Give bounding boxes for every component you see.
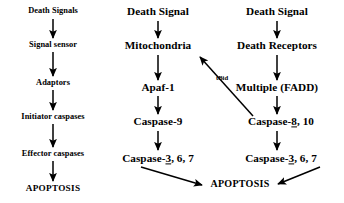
node-mitochondria: Mitochondria — [125, 40, 191, 51]
node-multiple-fadd: Multiple (FADD) — [236, 82, 318, 93]
node-caspase-3-6-7-mid: Caspase-3, 6, 7 — [122, 153, 194, 164]
node-death-signals: Death Signals — [28, 7, 78, 15]
apoptosis-pathway-diagram: Death Signals Signal sensor Adaptors Ini… — [0, 0, 344, 203]
edge-label-tbid: tBid — [216, 75, 228, 82]
node-death-signal-right: Death Signal — [246, 6, 308, 17]
node-signal-sensor: Signal sensor — [29, 41, 77, 49]
node-caspase-8-10: Caspase-8, 10 — [248, 116, 314, 127]
node-death-receptors: Death Receptors — [237, 40, 317, 51]
node-caspase-9: Caspase-9 — [134, 116, 183, 127]
node-apoptosis-center: APOPTOSIS — [210, 179, 269, 189]
node-apoptosis-left: APOPTOSIS — [26, 184, 81, 193]
arrow-layer — [0, 0, 344, 203]
node-effector-caspases: Effector caspases — [22, 150, 84, 158]
node-adaptors: Adaptors — [36, 79, 70, 87]
arrow-caspase-3-6-7-mid-to-apoptosis-center — [141, 167, 202, 185]
node-caspase-3-6-7-right: Caspase-3, 6, 7 — [245, 153, 317, 164]
node-death-signal-mid: Death Signal — [127, 6, 189, 17]
node-initiator-caspases: Initiator caspases — [21, 113, 84, 121]
node-apaf-1: Apaf-1 — [141, 82, 174, 93]
arrow-caspase-3-6-7-right-to-apoptosis-center — [278, 167, 320, 184]
